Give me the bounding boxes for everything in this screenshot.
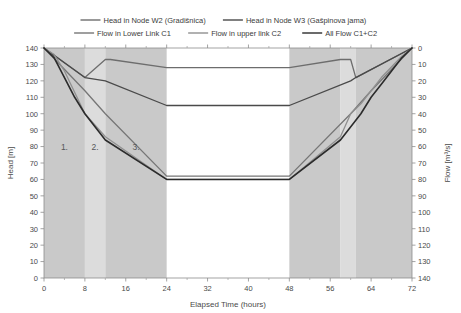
chart-figure: Head in Node W2 (Gradišnica)Head in Node…	[0, 0, 461, 313]
legend-label-1-2: All Flow C1+C2	[325, 29, 377, 38]
legend-label-0-1: Head in Node W3 (Gašpinova jama)	[246, 16, 367, 25]
shaded-zone-1	[85, 48, 105, 278]
y-right-tick-label: 50	[418, 126, 426, 135]
y-right-tick-label: 130	[418, 257, 431, 266]
x-tick-label: 32	[203, 284, 211, 293]
shaded-zone-3	[289, 48, 340, 278]
x-tick-label: 0	[42, 284, 46, 293]
y-left-tick-label: 120	[25, 77, 38, 86]
x-tick-label: 56	[326, 284, 334, 293]
y-left-tick-label: 140	[25, 44, 38, 53]
y-left-tick-label: 40	[30, 208, 38, 217]
y-left-tick-label: 80	[30, 142, 38, 151]
legend-label-0-0: Head in Node W2 (Gradišnica)	[104, 16, 207, 25]
y-left-tick-label: 130	[25, 60, 38, 69]
shaded-zone-2	[105, 48, 166, 278]
y-left-tick-label: 10	[30, 257, 38, 266]
x-tick-label: 48	[285, 284, 293, 293]
y-right-tick-label: 120	[418, 241, 431, 250]
zone-label-1: 2.	[92, 142, 99, 152]
x-tick-label: 40	[244, 284, 252, 293]
x-tick-label: 64	[367, 284, 375, 293]
x-tick-label: 16	[122, 284, 130, 293]
y-right-tick-label: 80	[418, 175, 426, 184]
y-left-tick-label: 50	[30, 192, 38, 201]
y-axis-left-title: Head [m]	[6, 147, 15, 179]
chart-container: Head in Node W2 (Gradišnica)Head in Node…	[0, 0, 461, 313]
x-tick-label: 72	[408, 284, 416, 293]
y-right-tick-label: 90	[418, 192, 426, 201]
y-right-tick-label: 70	[418, 159, 426, 168]
shaded-zone-5	[356, 48, 412, 278]
y-axis-right-title: Flow [m³/s]	[443, 143, 452, 182]
x-axis-title: Elapsed Time (hours)	[190, 300, 266, 309]
y-left-tick-label: 90	[30, 126, 38, 135]
y-right-tick-label: 30	[418, 93, 426, 102]
y-right-tick-label: 140	[418, 274, 431, 283]
y-left-tick-label: 20	[30, 241, 38, 250]
y-left-tick-label: 100	[25, 110, 38, 119]
legend-label-1-1: Flow in upper link C2	[211, 29, 281, 38]
y-right-tick-label: 10	[418, 60, 426, 69]
zone-label-0: 1.	[61, 142, 68, 152]
y-left-tick-label: 0	[34, 274, 38, 283]
y-right-tick-label: 40	[418, 110, 426, 119]
y-right-tick-label: 20	[418, 77, 426, 86]
y-left-tick-label: 70	[30, 159, 38, 168]
y-left-tick-label: 110	[26, 93, 38, 102]
y-right-tick-label: 0	[418, 44, 422, 53]
y-right-tick-label: 60	[418, 142, 426, 151]
shaded-zone-0	[44, 48, 85, 278]
y-right-tick-label: 100	[418, 208, 431, 217]
x-tick-label: 8	[83, 284, 87, 293]
legend-label-1-0: Flow in Lower Link C1	[97, 29, 171, 38]
y-right-tick-label: 110	[418, 225, 430, 234]
y-left-tick-label: 60	[30, 175, 38, 184]
zone-label-2: 3.	[132, 142, 139, 152]
y-left-tick-label: 30	[30, 225, 38, 234]
x-tick-label: 24	[162, 284, 170, 293]
